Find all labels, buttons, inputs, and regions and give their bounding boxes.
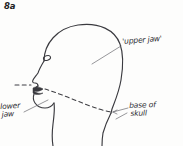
label-lower-jaw-line2: jaw (1, 110, 20, 119)
figure-number: 8a (4, 2, 15, 11)
tick-base-of-skull (116, 113, 127, 119)
jaw-plane-dashed-line (15, 85, 112, 112)
label-lower-jaw: lowerjaw (0, 102, 21, 119)
forehead-nose-path (33, 61, 44, 86)
neck-front-path (52, 103, 54, 146)
head-outline-path (44, 24, 123, 113)
leader-lower-jaw (24, 100, 48, 112)
leader-base-of-skull (113, 108, 128, 112)
lips-path (33, 87, 43, 95)
figure-canvas: 8a 'upper jaw' lowerjaw base ofskull (0, 0, 183, 146)
arrowhead-base-of-skull (113, 110, 117, 114)
leader-upper-jaw (92, 46, 121, 64)
label-base-of-skull: base ofskull (129, 101, 156, 118)
label-base-of-skull-line2: skull (130, 109, 156, 118)
neck-back-path (102, 113, 111, 146)
head-profile-sketch (0, 0, 183, 146)
